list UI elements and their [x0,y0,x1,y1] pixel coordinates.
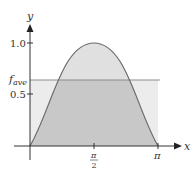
y-tick-label-1: 1.0 [10,38,26,49]
y-axis-arrow-icon [27,24,34,32]
x-axis-arrow-icon [174,143,182,150]
x-axis-label: x [184,140,191,153]
y-tick-label-05: 0.5 [10,89,26,100]
chart: y x 1.0 0.5 fave π 2 π [0,0,193,176]
x-tick-label-pi: π [153,150,161,161]
f-ave-label: fave [8,73,27,87]
y-axis-label: y [26,10,34,23]
x-tick-label-pi-half-den: 2 [92,161,97,170]
x-tick-label-pi-half-num: π [90,151,97,160]
